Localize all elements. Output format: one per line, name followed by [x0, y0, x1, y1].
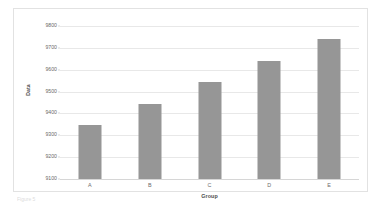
x-axis-tick-label: D [267, 183, 271, 188]
y-axis-title: Data [25, 70, 31, 110]
gridline [60, 179, 359, 180]
y-axis-tick-label: 9500 [45, 89, 57, 94]
x-axis-title: Group [60, 193, 359, 199]
plot-area: 98009700960095009400930092009100 ABCDE G… [60, 26, 359, 179]
y-axis-tick-label: 9700 [45, 45, 57, 50]
bar-d [258, 61, 281, 179]
y-axis-tick-label: 9400 [45, 111, 57, 116]
bar-series [60, 26, 359, 179]
bar-c [198, 82, 221, 179]
y-axis-tick-label: 9600 [45, 67, 57, 72]
bar-a [78, 125, 101, 179]
y-axis-tick-label: 9100 [45, 176, 57, 181]
x-axis-tick-label: C [208, 183, 212, 188]
x-axis-tick-label: E [327, 183, 331, 188]
bar-e [318, 39, 341, 179]
x-axis-tick-label: A [88, 183, 92, 188]
caption-fragment: Figure 5 [17, 196, 81, 203]
chart-frame: Data 98009700960095009400930092009100 AB… [13, 8, 368, 192]
x-axis-tick-label: B [148, 183, 152, 188]
y-axis-tick-label: 9200 [45, 155, 57, 160]
y-axis-tick-label: 9300 [45, 133, 57, 138]
bar-b [138, 104, 161, 179]
y-axis-tick-label: 9800 [45, 23, 57, 28]
